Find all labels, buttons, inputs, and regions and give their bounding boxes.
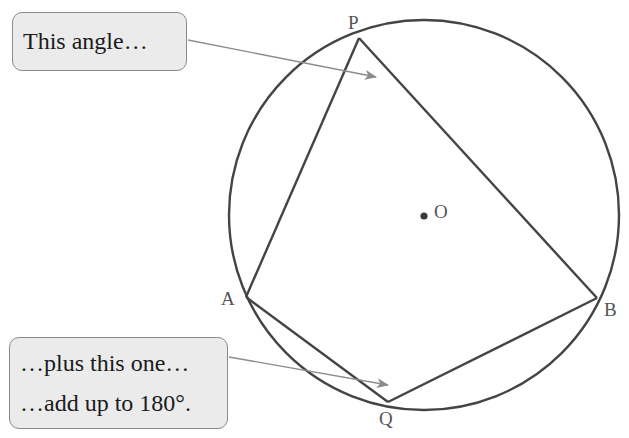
callout-top-line-1: This angle…: [23, 21, 186, 61]
arrow-to-angle-p: [188, 40, 376, 77]
callout-plus-this-one: …plus this one… …add up to 180°.: [9, 337, 228, 429]
quadrilateral-pbqa: [246, 38, 597, 402]
label-p: P: [348, 12, 359, 33]
callout-bottom-line-2: …add up to 180°.: [20, 383, 227, 423]
callout-this-angle: This angle…: [12, 12, 187, 71]
label-q: Q: [379, 408, 393, 429]
side-qa: [246, 297, 388, 402]
callout-bottom-line-1: …plus this one…: [20, 343, 227, 383]
arrow-to-angle-q: [229, 357, 388, 385]
label-a: A: [221, 288, 235, 309]
label-o: O: [434, 201, 448, 222]
side-ap: [246, 38, 359, 297]
center-point: [420, 212, 427, 219]
label-b: B: [604, 299, 617, 320]
